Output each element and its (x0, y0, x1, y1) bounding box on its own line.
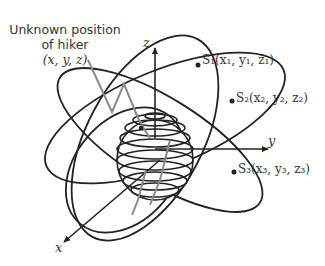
hiker-point (139, 126, 143, 130)
hiker-label-line1: Unknown position (0, 22, 130, 37)
x-axis-label: x (55, 241, 62, 254)
z-axis-label: z (143, 36, 150, 49)
y-axis-label: y (268, 134, 275, 147)
satellite-s3-point (232, 170, 237, 175)
satellite-s2-label: S₂(x₂, y₂, z₂) (236, 92, 308, 104)
satellite-s3-label: S₃(x₃, y₃, z₃) (238, 163, 310, 175)
hiker-label-line2: of hiker (0, 37, 130, 52)
satellite-s1-point (196, 63, 201, 68)
satellite-s1-label: S₁(x₁, y₁, z₁) (202, 54, 274, 66)
hiker-coords: (x, y, z) (0, 52, 130, 67)
satellite-s2-point (230, 99, 235, 104)
hiker-label: Unknown position of hiker (x, y, z) (0, 22, 130, 67)
